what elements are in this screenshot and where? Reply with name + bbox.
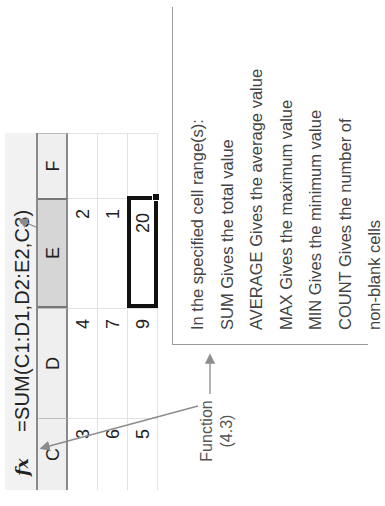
callout-average: AVERAGE Gives the average value <box>242 21 272 330</box>
callout-sum: SUM Gives the total value <box>213 21 243 330</box>
fill-handle[interactable] <box>152 193 160 201</box>
function-description-callout: In the specified cell range(s): SUM Give… <box>172 7 368 345</box>
cell-d2[interactable]: 7 <box>98 308 128 418</box>
callout-count: COUNT Gives the number of <box>331 21 361 330</box>
fx-icon[interactable]: fx <box>9 452 35 482</box>
cell-c2[interactable]: 6 <box>98 418 128 490</box>
callout-intro: In the specified cell range(s): <box>183 21 213 330</box>
column-header-f[interactable]: F <box>38 133 68 198</box>
column-header-c[interactable]: C <box>38 418 68 490</box>
cell-f3[interactable] <box>128 133 158 198</box>
cell-d3[interactable]: 9 <box>128 308 158 418</box>
cell-c1[interactable]: 3 <box>68 418 98 490</box>
cell-e1[interactable]: 2 <box>68 198 98 308</box>
callout-min: MIN Gives the minimum value <box>301 21 331 330</box>
cell-f2[interactable] <box>98 133 128 198</box>
cell-e2[interactable]: 1 <box>98 198 128 308</box>
formula-bar[interactable]: fx =SUM(C1:D1,D2:E2,C3) <box>5 133 38 490</box>
function-label-ref: (4.3) <box>217 392 237 470</box>
cell-f1[interactable] <box>68 133 98 198</box>
cell-c3[interactable]: 5 <box>128 418 158 490</box>
callout-count-cont: non-blank cells <box>360 21 385 330</box>
callout-max: MAX Gives the maximum value <box>272 21 302 330</box>
column-header-d[interactable]: D <box>38 308 68 418</box>
function-label-text: Function <box>197 392 217 470</box>
cell-d1[interactable]: 4 <box>68 308 98 418</box>
selected-cell-border <box>127 196 158 308</box>
column-header-e[interactable]: E <box>38 198 68 308</box>
function-annotation-label: Function (4.3) <box>197 392 237 470</box>
formula-input[interactable]: =SUM(C1:D1,D2:E2,C3) <box>8 210 36 432</box>
